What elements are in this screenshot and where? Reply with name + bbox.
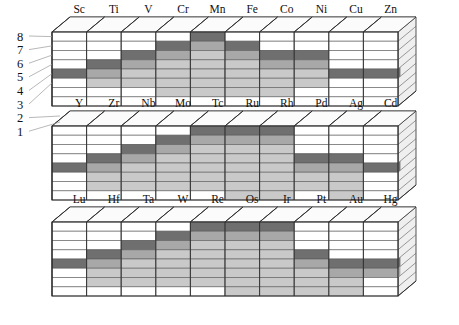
cell-V-L2 <box>121 88 156 97</box>
cell-Ru-L8 <box>225 126 260 135</box>
cell-Ir-L3 <box>260 268 295 277</box>
cell-Au-L8 <box>329 222 364 231</box>
cell-Rh-L4 <box>260 163 295 172</box>
element-label-V: V <box>144 3 153 15</box>
cell-Ag-L4 <box>329 163 364 172</box>
cell-Mo-L5 <box>156 154 191 163</box>
cell-Fe-L8 <box>225 32 260 41</box>
cell-Ru-L5 <box>225 154 260 163</box>
cell-Hg-L8 <box>363 222 398 231</box>
cell-Nb-L6 <box>121 145 156 154</box>
cell-Sc-L2 <box>52 88 87 97</box>
cell-Hf-L7 <box>87 231 122 240</box>
cell-Fe-L3 <box>225 78 260 87</box>
cell-Fe-L4 <box>225 69 260 78</box>
cell-Tc-L6 <box>190 145 225 154</box>
cell-Zn-L8 <box>363 32 398 41</box>
cell-Mo-L6 <box>156 145 191 154</box>
cell-Rh-L3 <box>260 172 295 181</box>
cell-Ag-L2 <box>329 182 364 191</box>
cell-Pt-L7 <box>294 231 329 240</box>
cell-Ir-L7 <box>260 231 295 240</box>
cell-Ir-L5 <box>260 250 295 259</box>
cell-Ta-L5 <box>121 250 156 259</box>
cell-Os-L5 <box>225 250 260 259</box>
cell-Cu-L7 <box>329 41 364 50</box>
cell-Mn-L7 <box>190 41 225 50</box>
cell-Pd-L4 <box>294 163 329 172</box>
element-label-W: W <box>178 193 189 205</box>
cell-Lu-L5 <box>52 250 87 259</box>
y-axis-tick-3: 3 <box>17 98 23 112</box>
cell-Ru-L4 <box>225 163 260 172</box>
element-label-Y: Y <box>75 97 84 109</box>
cell-Ir-L8 <box>260 222 295 231</box>
cell-V-L6 <box>121 51 156 60</box>
cell-Cd-L6 <box>363 145 398 154</box>
cell-Nb-L8 <box>121 126 156 135</box>
cell-Hf-L2 <box>87 278 122 287</box>
cell-Os-L4 <box>225 259 260 268</box>
cell-Y-L8 <box>52 126 87 135</box>
cell-V-L8 <box>121 32 156 41</box>
cell-Lu-L1 <box>52 287 87 296</box>
cell-Hg-L6 <box>363 241 398 250</box>
cell-Hf-L8 <box>87 222 122 231</box>
cell-Ti-L4 <box>87 69 122 78</box>
cell-Mn-L6 <box>190 51 225 60</box>
cell-Au-L3 <box>329 268 364 277</box>
cell-Tc-L5 <box>190 154 225 163</box>
element-label-Cd: Cd <box>384 97 398 109</box>
cell-Os-L3 <box>225 268 260 277</box>
cell-Re-L4 <box>190 259 225 268</box>
cell-Ir-L4 <box>260 259 295 268</box>
cell-Fe-L2 <box>225 88 260 97</box>
cell-Tc-L4 <box>190 163 225 172</box>
cell-Rh-L2 <box>260 182 295 191</box>
element-label-Nb: Nb <box>141 97 155 109</box>
cell-Mn-L4 <box>190 69 225 78</box>
cell-Ag-L3 <box>329 172 364 181</box>
cell-Sc-L5 <box>52 60 87 69</box>
cell-Hf-L5 <box>87 250 122 259</box>
cell-Ta-L3 <box>121 268 156 277</box>
cell-Mn-L3 <box>190 78 225 87</box>
cell-Nb-L4 <box>121 163 156 172</box>
cell-Co-L6 <box>260 51 295 60</box>
y-axis-tick-5: 5 <box>17 70 23 84</box>
cell-Ni-L7 <box>294 41 329 50</box>
cell-Ti-L6 <box>87 51 122 60</box>
cell-V-L4 <box>121 69 156 78</box>
cell-Ti-L7 <box>87 41 122 50</box>
element-label-Hg: Hg <box>384 193 398 206</box>
cell-Cu-L8 <box>329 32 364 41</box>
cell-Re-L1 <box>190 287 225 296</box>
cell-Cd-L5 <box>363 154 398 163</box>
cell-Hg-L5 <box>363 250 398 259</box>
cell-Lu-L2 <box>52 278 87 287</box>
cell-Pt-L1 <box>294 287 329 296</box>
element-label-Ru: Ru <box>245 97 259 109</box>
cell-Cu-L3 <box>329 78 364 87</box>
cell-V-L5 <box>121 60 156 69</box>
element-label-Re: Re <box>211 193 224 205</box>
cell-Co-L3 <box>260 78 295 87</box>
element-label-Mo: Mo <box>175 97 191 109</box>
element-label-Fe: Fe <box>246 3 258 15</box>
cell-Co-L8 <box>260 32 295 41</box>
cell-V-L3 <box>121 78 156 87</box>
cell-Zn-L3 <box>363 78 398 87</box>
cell-Mn-L5 <box>190 60 225 69</box>
cell-Cd-L3 <box>363 172 398 181</box>
cell-Rh-L7 <box>260 135 295 144</box>
cell-Pt-L4 <box>294 259 329 268</box>
cell-Hf-L4 <box>87 259 122 268</box>
figure-canvas: ScTiVCrMnFeCoNiCuZnYZrNbMoTcRuRhPdAgCdLu… <box>0 0 459 325</box>
cell-Fe-L5 <box>225 60 260 69</box>
element-label-Hf: Hf <box>108 193 120 205</box>
cell-Mn-L8 <box>190 32 225 41</box>
cell-Pd-L3 <box>294 172 329 181</box>
cell-Nb-L7 <box>121 135 156 144</box>
cell-Cu-L6 <box>329 51 364 60</box>
cell-Cd-L4 <box>363 163 398 172</box>
